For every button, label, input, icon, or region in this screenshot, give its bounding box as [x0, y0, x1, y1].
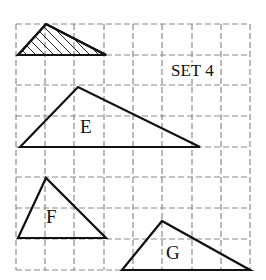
triangle-e — [20, 87, 200, 147]
triangle-worksheet: SET 4 E F G — [0, 0, 266, 280]
hatch-pattern — [0, 24, 171, 55]
triangle-g — [122, 221, 250, 270]
diagram-svg — [0, 0, 266, 280]
triangle-label-g: G — [166, 243, 180, 262]
triangle-label-f: F — [46, 207, 57, 226]
triangle-label-e: E — [80, 117, 92, 136]
set-title: SET 4 — [170, 62, 215, 79]
